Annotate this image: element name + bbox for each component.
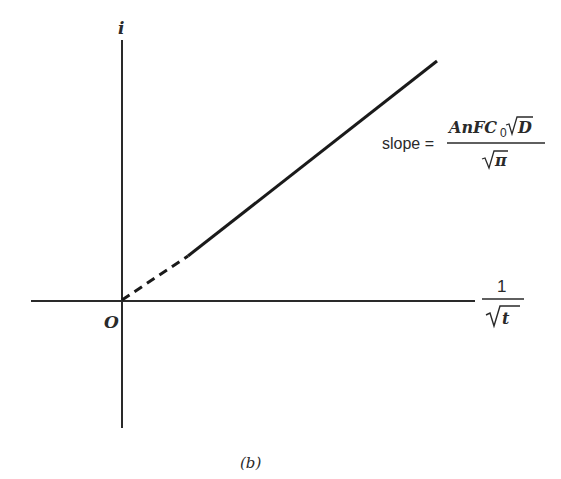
slope-denominator-pi: π bbox=[494, 151, 507, 170]
slope-prefix: slope = bbox=[382, 135, 434, 152]
x-label-denominator-var: t bbox=[502, 309, 510, 328]
solid-data-line bbox=[188, 61, 437, 256]
slope-annotation: slope = An FC 0 D π bbox=[382, 117, 545, 170]
x-label-numerator: 1 bbox=[497, 277, 506, 296]
x-axis-label: 1 t bbox=[482, 277, 524, 328]
dashed-extrapolation-line bbox=[122, 256, 188, 300]
y-axis-label: i bbox=[118, 18, 124, 38]
slope-numerator-FC: FC bbox=[472, 118, 497, 137]
slope-numerator-D: D bbox=[517, 118, 532, 137]
slope-numerator-An: An bbox=[447, 118, 473, 137]
chart-canvas: i O 1 t slope = An FC 0 D π (b) bbox=[0, 0, 561, 479]
origin-label: O bbox=[104, 312, 119, 332]
panel-caption: (b) bbox=[240, 454, 261, 472]
slope-numerator-subscript: 0 bbox=[500, 126, 507, 140]
